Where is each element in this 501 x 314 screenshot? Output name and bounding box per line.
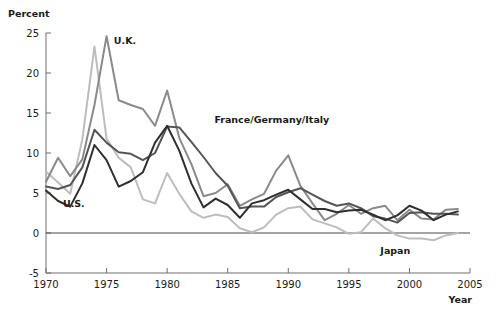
y-tick-label: 5 (33, 188, 39, 199)
y-tick-label: 25 (26, 28, 39, 39)
x-axis-title-group: Year (447, 294, 472, 305)
y-tick-label: 20 (26, 68, 39, 79)
x-tick-label: 1990 (276, 279, 301, 290)
y-axis-ticks: 2520151050-5 (26, 28, 51, 279)
y-tick-label: -5 (29, 268, 39, 279)
series-line-u-k (46, 36, 458, 220)
annotation-france-germany-italy: France/Germany/Italy (214, 114, 330, 125)
y-axis-title-group: Percent (8, 8, 50, 19)
x-axis-title: Year (447, 294, 472, 305)
x-axis-ticks: 19701975198019851990199520002005 (33, 268, 482, 290)
data-series-lines (46, 36, 458, 240)
y-tick-label: 10 (26, 148, 39, 159)
annotation-japan: Japan (379, 245, 410, 256)
x-tick-label: 2000 (397, 279, 422, 290)
line-chart-svg: Percent Year 2520151050-5 19701975198019… (0, 0, 501, 314)
y-tick-label: 0 (33, 228, 39, 239)
chart-figure: Percent Year 2520151050-5 19701975198019… (0, 0, 501, 314)
x-tick-label: 1980 (154, 279, 179, 290)
x-tick-label: 1975 (94, 279, 119, 290)
x-tick-label: 1985 (215, 279, 240, 290)
y-axis-title: Percent (8, 8, 50, 19)
annotation-u-k: U.K. (114, 35, 136, 46)
x-tick-label: 2005 (457, 279, 482, 290)
series-annotations: U.K.U.S.France/Germany/ItalyJapan (63, 35, 411, 256)
y-tick-label: 15 (26, 108, 39, 119)
x-tick-label: 1995 (336, 279, 361, 290)
annotation-u-s: U.S. (63, 198, 85, 209)
x-tick-label: 1970 (33, 279, 58, 290)
